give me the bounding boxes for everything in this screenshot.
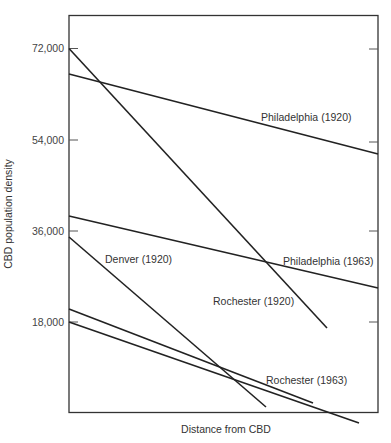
line-rochester-1963-upper xyxy=(69,309,313,403)
line-rochester-1920 xyxy=(69,49,327,329)
y-tick-label-18000: 18,000 xyxy=(32,316,64,328)
label-rochester-1920: Rochester (1920) xyxy=(213,295,294,307)
label-philadelphia-1963: Philadelphia (1963) xyxy=(283,255,373,267)
y-tick-label-54000: 54,000 xyxy=(32,134,64,146)
label-rochester-1963: Rochester (1963) xyxy=(266,374,347,386)
y-axis-left-ticks xyxy=(69,49,78,323)
x-axis-label: Distance from CBD xyxy=(181,423,271,435)
line-rochester-1963-lower xyxy=(69,322,359,423)
y-axis-right-ticks xyxy=(369,49,378,322)
population-density-chart: 72,000 54,000 36,000 18,000 CBD populati… xyxy=(0,0,391,443)
plot-frame xyxy=(69,16,378,413)
y-tick-label-36000: 36,000 xyxy=(32,225,64,237)
series-lines xyxy=(69,49,378,424)
y-tick-label-72000: 72,000 xyxy=(32,42,64,54)
y-axis-label: CBD population density xyxy=(2,158,14,268)
label-philadelphia-1920: Philadelphia (1920) xyxy=(261,111,351,123)
label-denver-1920: Denver (1920) xyxy=(105,253,172,265)
